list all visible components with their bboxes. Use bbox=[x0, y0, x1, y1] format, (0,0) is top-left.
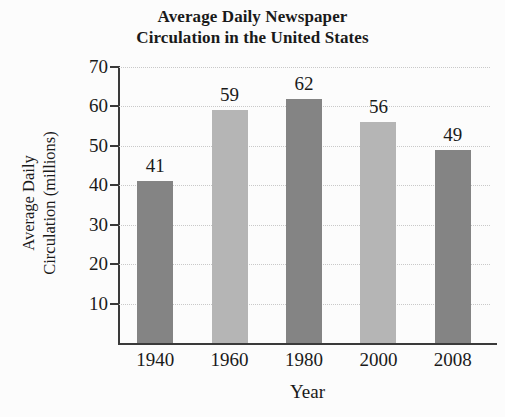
x-axis-tick-label: 2008 bbox=[418, 350, 488, 369]
y-axis-tick bbox=[110, 224, 119, 226]
y-axis-tick-label: 20 bbox=[64, 254, 108, 273]
bar bbox=[360, 122, 396, 343]
y-axis-tick-label: 70 bbox=[64, 57, 108, 76]
bar bbox=[286, 99, 322, 343]
y-axis-tick-label: 40 bbox=[64, 175, 108, 194]
y-axis-title-line-1: Average Daily bbox=[18, 131, 39, 274]
bar-value-label: 59 bbox=[200, 85, 260, 104]
x-axis-line bbox=[118, 343, 497, 345]
bar bbox=[212, 110, 248, 343]
y-axis-title-line-2: Circulation (millions) bbox=[39, 131, 60, 274]
bar bbox=[435, 150, 471, 343]
chart-title-line-1: Average Daily Newspaper bbox=[0, 6, 505, 27]
x-axis-tick-label: 1960 bbox=[195, 350, 265, 369]
plot-area bbox=[118, 67, 490, 343]
y-axis-tick bbox=[110, 145, 119, 147]
y-axis-tick bbox=[110, 184, 119, 186]
x-axis-tick-label: 2000 bbox=[343, 350, 413, 369]
bar-value-label: 49 bbox=[423, 125, 483, 144]
x-axis-tick-label: 1980 bbox=[269, 350, 339, 369]
y-axis-tick bbox=[110, 263, 119, 265]
x-axis-tick-label: 1940 bbox=[120, 350, 190, 369]
y-axis-tick-label: 50 bbox=[64, 136, 108, 155]
chart-title: Average Daily Newspaper Circulation in t… bbox=[0, 6, 505, 48]
bar-value-label: 62 bbox=[274, 74, 334, 93]
bar-value-label: 41 bbox=[125, 156, 185, 175]
y-axis-tick-label: 30 bbox=[64, 215, 108, 234]
y-axis-tick-labels: 70605040302010 bbox=[62, 67, 108, 343]
y-axis-tick bbox=[110, 66, 119, 68]
y-axis-tick-label: 60 bbox=[64, 96, 108, 115]
gridline bbox=[118, 67, 490, 68]
x-axis-title: Year bbox=[118, 381, 497, 403]
bar-value-label: 56 bbox=[348, 97, 408, 116]
y-axis-tick bbox=[110, 303, 119, 305]
bar-chart: Average Daily Newspaper Circulation in t… bbox=[0, 0, 505, 417]
y-axis-title: Average Daily Circulation (millions) bbox=[14, 60, 64, 345]
y-axis-tick bbox=[110, 105, 119, 107]
bar bbox=[137, 181, 173, 343]
y-axis-tick-label: 10 bbox=[64, 294, 108, 313]
chart-title-line-2: Circulation in the United States bbox=[0, 27, 505, 48]
